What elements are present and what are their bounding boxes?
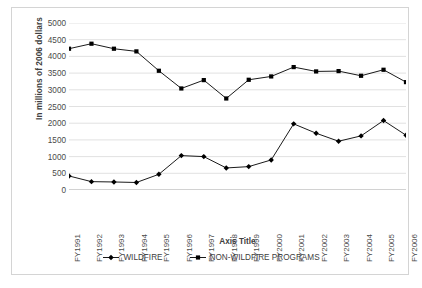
data-point-marker xyxy=(201,154,206,159)
legend-square-marker-icon xyxy=(189,253,207,262)
data-point-marker xyxy=(358,133,363,138)
data-point-marker xyxy=(313,131,318,136)
data-point-marker xyxy=(314,69,318,73)
series-line xyxy=(69,44,406,99)
data-point-marker xyxy=(291,121,296,126)
data-point-marker xyxy=(359,74,363,78)
data-point-marker xyxy=(224,96,228,100)
y-axis-tick-label: 500 xyxy=(26,169,66,178)
data-point-marker xyxy=(69,173,72,178)
y-axis-tick-labels: 0500100015002000250030003500400045005000 xyxy=(26,16,66,191)
data-point-marker xyxy=(134,49,138,53)
data-point-marker xyxy=(269,74,273,78)
data-point-marker xyxy=(179,86,183,90)
line-chart-svg xyxy=(69,23,406,190)
data-point-marker xyxy=(247,78,251,82)
y-axis-tick-label: 0 xyxy=(26,186,66,195)
data-point-marker xyxy=(336,139,341,144)
chart-legend: WILDFIRENON-WILDFIRE PROGRAMS xyxy=(12,253,410,262)
data-point-marker xyxy=(269,157,274,162)
y-axis-tick-label: 1000 xyxy=(26,152,66,161)
data-point-marker xyxy=(381,68,385,72)
y-axis-tick-label: 5000 xyxy=(26,19,66,28)
data-point-marker xyxy=(246,164,251,169)
data-point-marker xyxy=(381,118,386,123)
x-axis-tick-label: FY2006 xyxy=(410,234,419,262)
data-point-marker xyxy=(89,179,94,184)
y-axis-tick-label: 2500 xyxy=(26,102,66,111)
x-axis-title: Axis Title xyxy=(69,237,406,246)
data-point-marker xyxy=(202,78,206,82)
y-axis-tick-label: 4500 xyxy=(26,35,66,44)
y-axis-tick-label: 4000 xyxy=(26,52,66,61)
plot-area xyxy=(69,23,406,190)
data-point-marker xyxy=(111,179,116,184)
data-point-marker xyxy=(134,180,139,185)
y-axis-tick-label: 3500 xyxy=(26,69,66,78)
chart-container: In millions of 2006 dollars 050010001500… xyxy=(11,7,409,275)
data-point-marker xyxy=(292,65,296,69)
data-point-marker xyxy=(404,80,406,84)
data-point-marker xyxy=(112,47,116,51)
y-axis-tick-label: 1500 xyxy=(26,135,66,144)
x-axis-tick-labels: FY1991FY1992FY1993FY1994FY1995FY1996FY19… xyxy=(69,192,406,236)
data-point-marker xyxy=(337,69,341,73)
y-axis-tick-label: 2000 xyxy=(26,119,66,128)
data-point-marker xyxy=(157,69,161,73)
legend-diamond-marker-icon xyxy=(102,253,120,262)
data-point-marker xyxy=(89,42,93,46)
data-point-marker xyxy=(69,47,71,51)
legend-label: NON-WILDFIRE PROGRAMS xyxy=(210,253,320,262)
legend-item[interactable]: WILDFIRE xyxy=(102,253,162,262)
y-axis-tick-label: 3000 xyxy=(26,85,66,94)
legend-item[interactable]: NON-WILDFIRE PROGRAMS xyxy=(189,253,320,262)
data-point-marker xyxy=(224,165,229,170)
legend-label: WILDFIRE xyxy=(123,253,162,262)
